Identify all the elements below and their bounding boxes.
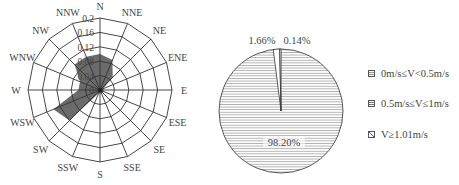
legend: 0m/s≤V<0.5m/s 0.5m/s≤V≤1m/s V≥1.01m/s: [368, 0, 459, 185]
direction-label-sw: SW: [33, 144, 49, 155]
legend-label: 0.5m/s≤V≤1m/s: [381, 98, 449, 109]
direction-label-sse: SSE: [124, 162, 141, 173]
radial-tick-label: 0.08: [77, 57, 94, 67]
pie-label-low: 0.14%: [283, 35, 310, 46]
legend-item-high: V≥1.01m/s: [368, 129, 428, 140]
wind-rose-chart: NNNENEENEEESESESSESSSWSWWSWWWNWNWNNW00.0…: [0, 0, 230, 185]
radial-tick-label: 0.04: [77, 72, 94, 82]
pie-label-high: 98.20%: [268, 137, 301, 148]
legend-item-mid: 0.5m/s≤V≤1m/s: [368, 98, 449, 109]
radial-tick-label: 0: [89, 86, 94, 96]
direction-label-n: N: [96, 1, 103, 12]
direction-label-ene: ENE: [168, 52, 187, 63]
legend-swatch-icon: [368, 70, 375, 77]
radial-tick-label: 0.2: [82, 14, 94, 24]
pie-label-mid: 1.66%: [248, 35, 275, 46]
rose-spoke: [100, 90, 151, 141]
direction-label-wnw: WNW: [9, 52, 36, 63]
direction-label-ne: NE: [153, 25, 166, 36]
direction-label-nne: NNE: [122, 7, 143, 18]
wind-speed-pie-chart: 1.66%0.14%98.20%: [215, 0, 355, 185]
direction-label-nw: NW: [32, 25, 49, 36]
legend-swatch-icon: [368, 100, 375, 107]
radial-tick-label: 0.12: [77, 43, 94, 53]
radial-tick-label: 0.16: [77, 28, 94, 38]
direction-label-nnw: NNW: [56, 7, 80, 18]
direction-label-e: E: [181, 85, 187, 96]
direction-label-ssw: SSW: [58, 162, 79, 173]
rose-center-dot: [98, 88, 102, 92]
legend-item-low: 0m/s≤V<0.5m/s: [368, 68, 449, 79]
direction-label-ese: ESE: [169, 117, 187, 128]
legend-label: V≥1.01m/s: [381, 129, 428, 140]
legend-swatch-icon: [368, 131, 375, 138]
direction-label-w: W: [11, 85, 21, 96]
direction-label-wsw: WSW: [10, 117, 35, 128]
legend-label: 0m/s≤V<0.5m/s: [381, 68, 449, 79]
direction-label-se: SE: [154, 144, 166, 155]
direction-label-s: S: [97, 169, 103, 180]
